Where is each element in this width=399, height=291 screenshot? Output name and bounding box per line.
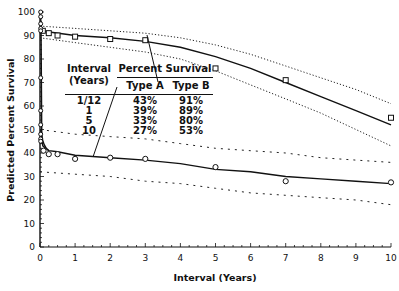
type-a-circle-marker xyxy=(213,165,218,170)
y-tick-label: 10 xyxy=(24,219,36,229)
y-axis-marker xyxy=(39,139,43,143)
type-a-circle-marker xyxy=(46,152,51,157)
x-tick-label: 8 xyxy=(318,253,324,263)
x-tick-label: 3 xyxy=(142,253,148,263)
x-axis-title: Interval (Years) xyxy=(173,272,256,283)
y-axis-marker xyxy=(39,76,43,80)
type-a-lower-ci xyxy=(40,172,391,205)
type-b-square-marker xyxy=(213,66,218,71)
x-tick-label: 5 xyxy=(213,253,219,263)
y-axis-title: Predicted Percent Survival xyxy=(5,58,16,201)
type-a-circle-marker xyxy=(73,156,78,161)
x-tick-label: 1 xyxy=(72,253,78,263)
type-b-square-marker xyxy=(389,115,394,120)
type-a-circle-marker xyxy=(143,156,148,161)
type-b-square-marker xyxy=(108,37,113,42)
survival-chart: 0123456789100102030405060708090100 Inter… xyxy=(0,0,399,291)
type-b-square-marker xyxy=(46,31,51,36)
type-b-square-marker xyxy=(283,78,288,83)
interval-cell: 10 xyxy=(63,126,115,136)
y-tick-label: 60 xyxy=(24,101,36,111)
y-tick-label: 90 xyxy=(24,31,36,41)
type-a-circle-marker xyxy=(108,155,113,160)
y-axis-marker xyxy=(39,15,43,19)
group-header-rule xyxy=(117,77,213,78)
y-axis-marker xyxy=(39,22,43,26)
type-a-circle-marker xyxy=(388,180,393,185)
type-b-cell: 53% xyxy=(169,126,213,136)
y-tick-label: 30 xyxy=(24,172,36,182)
y-tick-label: 100 xyxy=(18,7,35,17)
type-a-circle-marker xyxy=(41,148,46,153)
y-axis-marker xyxy=(39,132,43,136)
y-tick-label: 40 xyxy=(24,148,36,158)
type-b-square-marker xyxy=(73,34,78,39)
y-tick-label: 80 xyxy=(24,54,36,64)
y-axis-marker xyxy=(39,10,43,14)
x-tick-label: 0 xyxy=(37,253,43,263)
x-tick-label: 7 xyxy=(283,253,289,263)
x-tick-label: 2 xyxy=(107,253,113,263)
y-tick-label: 20 xyxy=(24,195,36,205)
table-row: 10 27% 53% xyxy=(63,126,213,136)
x-tick-label: 4 xyxy=(178,253,184,263)
type-a-cell: 27% xyxy=(115,126,169,136)
y-tick-label: 0 xyxy=(29,242,35,252)
type-a-circle-marker xyxy=(55,152,60,157)
interval-header: Interval (Years) xyxy=(63,63,115,87)
y-axis-marker xyxy=(39,109,43,113)
x-tick-label: 10 xyxy=(385,253,397,263)
type-a-header: Type A xyxy=(123,80,167,91)
y-tick-label: 70 xyxy=(24,78,36,88)
x-tick-label: 9 xyxy=(353,253,359,263)
type-b-square-marker xyxy=(55,33,60,38)
x-tick-label: 6 xyxy=(248,253,254,263)
type-a-circle-marker xyxy=(283,179,288,184)
percent-survival-header: Percent Survival xyxy=(117,63,213,74)
type-b-header: Type B xyxy=(169,80,213,91)
y-tick-label: 50 xyxy=(24,125,36,135)
y-axis-marker xyxy=(39,29,43,33)
type-b-square-marker xyxy=(143,38,148,43)
table-rows: 1/12 43% 91% 1 39% 89% 5 33% 80% 10 27% … xyxy=(63,96,213,136)
y-axis-marker xyxy=(39,123,43,127)
